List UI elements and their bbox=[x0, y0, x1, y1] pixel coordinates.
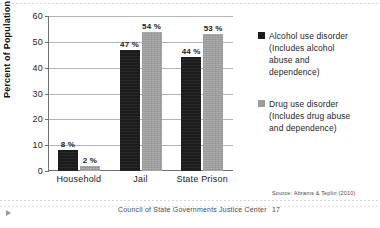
legend-item-alcohol[interactable]: Alcohol use disorder (Includes alcohol a… bbox=[258, 30, 378, 78]
legend-drug-line1: Drug use disorder bbox=[269, 98, 350, 110]
bar-state-prison-drug[interactable]: 53 % bbox=[203, 34, 223, 171]
bar-label-state-prison-drug: 53 % bbox=[204, 24, 223, 33]
ytick-label-40: 40 bbox=[32, 63, 43, 73]
y-axis-title: Percent of Population bbox=[2, 1, 12, 98]
bar-label-household-drug: 2 % bbox=[83, 156, 97, 165]
ytick-label-30: 30 bbox=[32, 89, 43, 99]
legend-swatch-drug-icon bbox=[258, 100, 265, 107]
bar-groups: 8 % 2 % 47 % 54 % 44 % 53 % bbox=[48, 16, 233, 171]
legend-item-drug[interactable]: Drug use disorder (Includes drug abuse a… bbox=[258, 98, 378, 134]
scan-artifact-top bbox=[0, 3, 380, 4]
bar-group-state-prison: 44 % 53 % bbox=[171, 16, 233, 171]
bar-group-household: 8 % 2 % bbox=[48, 16, 110, 171]
x-label-state-prison: State Prison bbox=[171, 174, 233, 184]
bar-jail-drug[interactable]: 54 % bbox=[142, 32, 162, 172]
legend-swatch-alcohol-icon bbox=[258, 32, 265, 39]
bar-group-jail: 47 % 54 % bbox=[110, 16, 172, 171]
legend-alcohol-line1: Alcohol use disorder bbox=[269, 30, 348, 42]
ytick-label-20: 20 bbox=[32, 114, 43, 124]
scan-artifact-mid bbox=[0, 200, 380, 201]
bar-label-household-alcohol: 8 % bbox=[61, 140, 75, 149]
bar-label-state-prison-alcohol: 44 % bbox=[182, 47, 201, 56]
bar-jail-alcohol[interactable]: 47 % bbox=[120, 50, 140, 171]
bar-label-jail-alcohol: 47 % bbox=[120, 40, 139, 49]
x-label-jail: Jail bbox=[110, 174, 172, 184]
ytick-0 bbox=[45, 171, 49, 172]
bar-label-jail-drug: 54 % bbox=[142, 22, 161, 31]
footer-page-number: 17 bbox=[272, 206, 280, 213]
legend-alcohol-line4: dependence) bbox=[269, 66, 348, 78]
footer-organization: Council of State Governments Justice Cen… bbox=[118, 206, 267, 213]
bar-household-drug[interactable]: 2 % bbox=[80, 166, 100, 171]
legend-drug-line2: (Includes drug abuse bbox=[269, 110, 350, 122]
legend-label-alcohol: Alcohol use disorder (Includes alcohol a… bbox=[269, 30, 348, 78]
ytick-label-50: 50 bbox=[32, 37, 43, 47]
ytick-label-0: 0 bbox=[38, 166, 43, 176]
chart-legend: Alcohol use disorder (Includes alcohol a… bbox=[258, 30, 378, 154]
legend-alcohol-line3: abuse and bbox=[269, 54, 348, 66]
legend-alcohol-line2: (Includes alcohol bbox=[269, 42, 348, 54]
x-label-household: Household bbox=[48, 174, 110, 184]
legend-drug-line3: and dependence) bbox=[269, 122, 350, 134]
bar-chart: Percent of Population 60 50 40 30 20 10 … bbox=[0, 6, 248, 178]
legend-label-drug: Drug use disorder (Includes drug abuse a… bbox=[269, 98, 350, 134]
source-attribution: Source: Abrams & Teplin (2010) bbox=[272, 190, 356, 196]
ytick-label-60: 60 bbox=[32, 11, 43, 21]
bar-state-prison-alcohol[interactable]: 44 % bbox=[181, 57, 201, 171]
x-axis-labels: Household Jail State Prison bbox=[48, 174, 233, 184]
bar-household-alcohol[interactable]: 8 % bbox=[58, 150, 78, 171]
ytick-label-10: 10 bbox=[32, 140, 43, 150]
next-slide-arrow-icon[interactable] bbox=[6, 210, 11, 216]
